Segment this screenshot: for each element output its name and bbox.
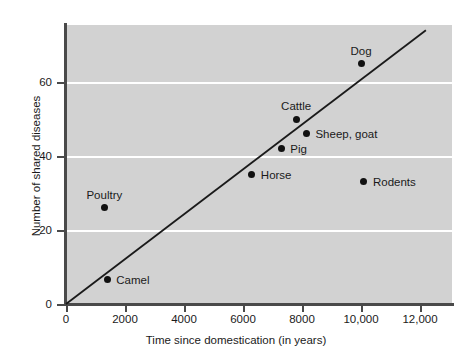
x-tick-8000 xyxy=(302,305,304,312)
gridline-y-60 xyxy=(66,82,452,84)
x-axis-title: Time since domestication (in years) xyxy=(0,334,472,346)
x-ticklabel-8000: 8000 xyxy=(289,313,315,325)
x-tick-6000 xyxy=(243,305,245,312)
y-ticklabel-40: 40 xyxy=(0,150,52,162)
data-label-cattle: Cattle xyxy=(281,100,311,112)
data-label-pig: Pig xyxy=(290,143,307,155)
y-tick-60 xyxy=(57,82,65,84)
x-tick-0 xyxy=(66,305,68,312)
data-label-poultry: Poultry xyxy=(86,189,122,201)
x-ticklabel-2000: 2000 xyxy=(112,313,138,325)
y-ticklabel-60: 60 xyxy=(0,76,52,88)
data-point-dog[interactable] xyxy=(358,60,365,67)
y-axis-line xyxy=(64,23,67,306)
data-point-pig[interactable] xyxy=(278,145,285,152)
x-ticklabel-0: 0 xyxy=(63,313,69,325)
y-ticklabel-20: 20 xyxy=(0,224,52,236)
gridline-y-20 xyxy=(66,230,452,232)
x-ticklabel-12000: 12,000 xyxy=(402,313,437,325)
data-label-sheep-goat: Sheep, goat xyxy=(315,128,377,140)
x-tick-10000 xyxy=(361,305,363,312)
data-label-dog: Dog xyxy=(350,45,371,57)
data-label-camel: Camel xyxy=(116,274,149,286)
y-ticklabel-0: 0 xyxy=(0,298,52,310)
data-label-rodents: Rodents xyxy=(373,176,416,188)
x-tick-12000 xyxy=(420,305,422,312)
y-tick-20 xyxy=(57,230,65,232)
y-tick-0 xyxy=(57,304,65,306)
gridline-y-40 xyxy=(66,156,452,158)
y-axis-title: Number of shared diseases xyxy=(30,46,42,286)
x-ticklabel-10000: 10,000 xyxy=(343,313,378,325)
data-point-cattle[interactable] xyxy=(293,116,300,123)
plot-area xyxy=(66,25,452,304)
x-ticklabel-4000: 4000 xyxy=(171,313,197,325)
data-label-horse: Horse xyxy=(261,169,292,181)
scatter-chart: 0 2000 4000 6000 8000 10,000 12,000 0 20… xyxy=(0,0,472,359)
x-tick-2000 xyxy=(125,305,127,312)
y-tick-40 xyxy=(57,156,65,158)
x-tick-4000 xyxy=(184,305,186,312)
x-axis-line xyxy=(64,303,454,306)
x-ticklabel-6000: 6000 xyxy=(230,313,256,325)
